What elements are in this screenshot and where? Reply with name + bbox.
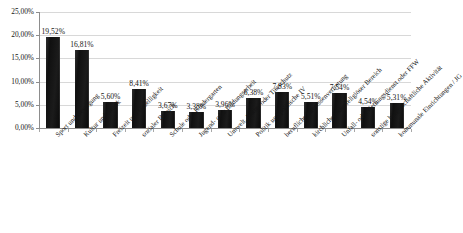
x-axis-tickmark bbox=[268, 129, 269, 132]
x-axis-tickmark bbox=[354, 129, 355, 132]
bar-value-label: 8,41% bbox=[129, 80, 149, 88]
bar[interactable]: 19,52% bbox=[46, 37, 60, 128]
bar-value-label: 19,52% bbox=[42, 28, 65, 36]
x-axis-tickmark bbox=[297, 129, 298, 132]
x-axis-tickmark bbox=[211, 129, 212, 132]
y-axis-tick-label: 0,00% bbox=[15, 124, 34, 132]
x-axis-tickmark bbox=[411, 129, 412, 132]
y-axis-tick-label: 25,00% bbox=[11, 8, 34, 16]
x-axis-tickmark bbox=[39, 129, 40, 132]
y-axis-tick-label: 20,00% bbox=[11, 31, 34, 39]
y-axis-tick-label: 15,00% bbox=[11, 54, 34, 62]
x-axis-tickmark bbox=[153, 129, 154, 132]
x-axis-tickmark bbox=[68, 129, 69, 132]
y-axis-tick-label: 5,00% bbox=[15, 101, 34, 109]
x-axis-tickmark bbox=[182, 129, 183, 132]
x-axis-tickmark bbox=[382, 129, 383, 132]
x-axis-tickmark bbox=[96, 129, 97, 132]
x-axis-category-labels: Sport und BewegungKultur und MusikFreize… bbox=[39, 129, 411, 233]
bar-value-label: 16,81% bbox=[70, 41, 93, 49]
y-axis-tick-label: 10,00% bbox=[11, 78, 34, 86]
x-axis-tickmark bbox=[125, 129, 126, 132]
x-axis-tickmark bbox=[325, 129, 326, 132]
bar-column[interactable]: 19,52% bbox=[46, 12, 60, 128]
y-axis-labels: 25,00%20,00%15,00%10,00%5,00%0,00% bbox=[0, 12, 37, 129]
x-axis-tickmark bbox=[239, 129, 240, 132]
